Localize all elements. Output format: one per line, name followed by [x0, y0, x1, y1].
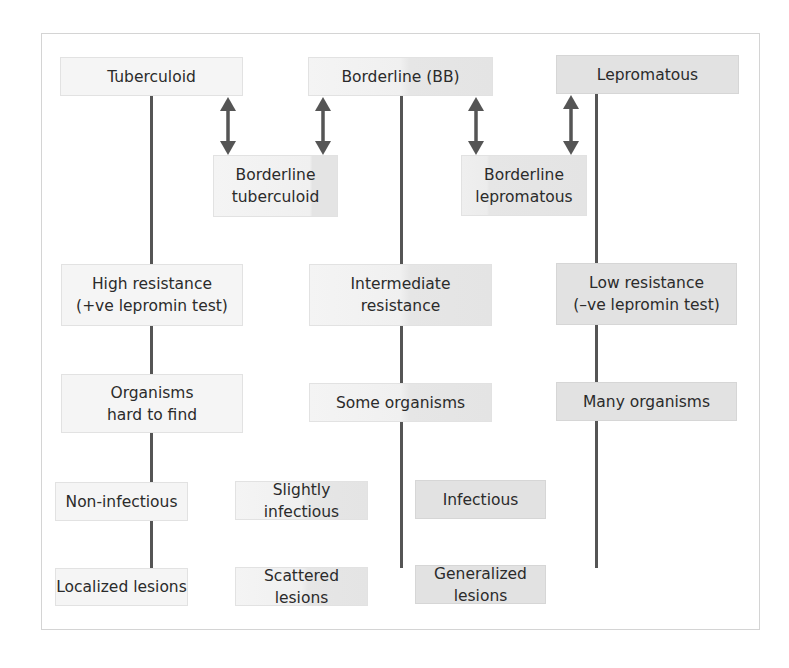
tuberculoid-header-label: Tuberculoid — [107, 66, 196, 88]
lepromatous-header-box: Lepromatous — [556, 55, 739, 94]
lepromatous-resistance-box: Low resistance (–ve lepromin test) — [556, 263, 737, 325]
borderline-resistance-box: Intermediate resistance — [309, 264, 492, 326]
borderline-infectivity-label: Slightly infectious — [236, 479, 367, 523]
borderline-tuberculoid-line-1: Borderline — [236, 164, 316, 186]
borderline-tuberculoid-box: Borderline tuberculoid — [213, 155, 338, 217]
borderline-header-box: Borderline (BB) — [308, 57, 493, 96]
arrow-lepromatous-to-bl — [563, 95, 579, 155]
borderline-lepromatous-line-1: Borderline — [484, 164, 564, 186]
tuberculoid-resistance-box: High resistance (+ve lepromin test) — [61, 264, 243, 326]
tuberculoid-infectivity-box: Non-infectious — [55, 482, 188, 521]
lepromatous-header-label: Lepromatous — [597, 64, 698, 86]
tuberculoid-organisms-line-2: hard to find — [107, 404, 197, 426]
tuberculoid-lesions-box: Localized lesions — [55, 568, 188, 606]
borderline-lesions-box: Scattered lesions — [235, 567, 368, 606]
lepromatous-organisms-label: Many organisms — [583, 391, 710, 413]
tuberculoid-organisms-box: Organisms hard to find — [61, 374, 243, 433]
lepromatous-organisms-box: Many organisms — [556, 382, 737, 421]
tuberculoid-resistance-line-1: High resistance — [92, 273, 212, 295]
borderline-tuberculoid-line-2: tuberculoid — [232, 186, 320, 208]
tuberculoid-lesions-label: Localized lesions — [56, 576, 187, 598]
tuberculoid-organisms-line-1: Organisms — [110, 382, 193, 404]
borderline-lepromatous-box: Borderline lepromatous — [461, 155, 587, 216]
lepromatous-resistance-line-2: (–ve lepromin test) — [573, 294, 720, 316]
borderline-resistance-line-1: Intermediate — [350, 273, 450, 295]
lepromatous-lesions-label: Generalized lesions — [416, 563, 545, 607]
lepromatous-resistance-line-1: Low resistance — [589, 272, 704, 294]
lepromatous-infectivity-box: Infectious — [415, 480, 546, 519]
arrow-tuberculoid-to-bt — [220, 97, 236, 155]
borderline-organisms-label: Some organisms — [336, 392, 465, 414]
borderline-lesions-label: Scattered lesions — [236, 565, 367, 609]
tuberculoid-resistance-line-2: (+ve lepromin test) — [76, 295, 228, 317]
arrow-bb-to-bl — [468, 97, 484, 155]
arrow-bb-to-bt — [315, 97, 331, 155]
lepromatous-lesions-box: Generalized lesions — [415, 565, 546, 604]
lepromatous-infectivity-label: Infectious — [443, 489, 519, 511]
tuberculoid-infectivity-label: Non-infectious — [66, 491, 178, 513]
borderline-lepromatous-line-2: lepromatous — [475, 186, 572, 208]
borderline-header-label: Borderline (BB) — [341, 66, 459, 88]
borderline-resistance-line-2: resistance — [361, 295, 440, 317]
borderline-organisms-box: Some organisms — [309, 383, 492, 422]
borderline-infectivity-box: Slightly infectious — [235, 481, 368, 520]
tuberculoid-header-box: Tuberculoid — [60, 57, 243, 96]
